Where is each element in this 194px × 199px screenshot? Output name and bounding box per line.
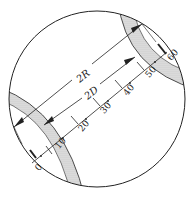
label-2D: 2D <box>81 84 100 102</box>
upper-band <box>118 0 194 90</box>
tick-60: 60 <box>165 47 180 62</box>
tick-0: 0 <box>33 162 45 173</box>
tick-20: 20 <box>76 118 91 133</box>
shaded-bands <box>0 0 194 199</box>
tick-40: 40 <box>121 82 136 97</box>
arrow-head-icon <box>124 57 135 65</box>
label-2R: 2R <box>73 67 92 85</box>
circle-scale-diagram: 2R 2D 0 10 20 30 40 50 60 <box>0 0 194 199</box>
tick-30: 30 <box>98 100 113 115</box>
arrow-head-icon <box>14 117 24 127</box>
